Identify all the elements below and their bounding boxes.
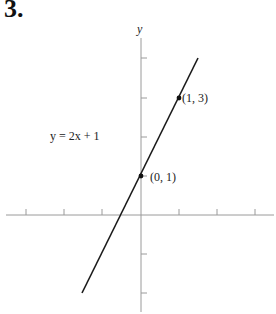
graph: y y = 2x + 1 (0, 1) (1, 3) <box>0 0 276 314</box>
point-label-0-1: (0, 1) <box>150 170 176 184</box>
y-axis-label: y <box>136 22 143 36</box>
equation-label: y = 2x + 1 <box>50 129 100 143</box>
point-1-3 <box>177 96 182 101</box>
point-label-1-3: (1, 3) <box>182 91 208 105</box>
point-0-1 <box>139 174 144 179</box>
